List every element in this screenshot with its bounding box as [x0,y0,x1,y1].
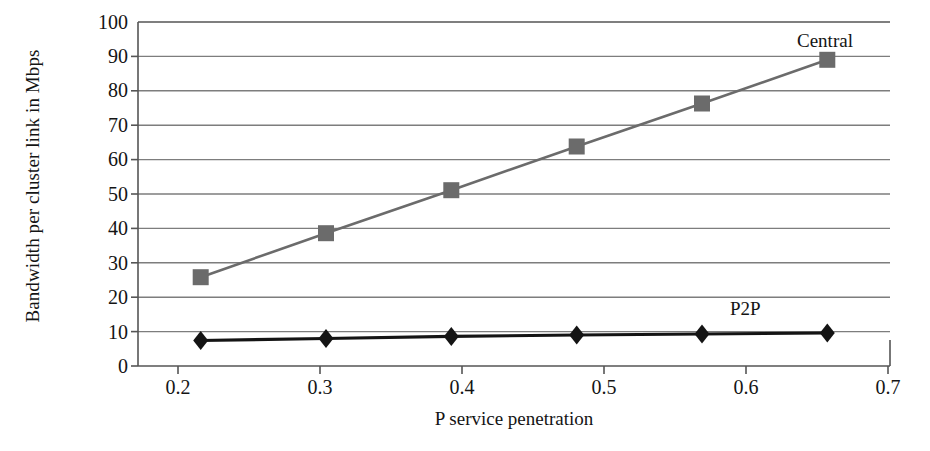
x-axis-ticks [178,366,888,374]
marker-square [193,269,209,285]
x-tick-label: 0.5 [574,376,634,399]
x-tick-label: 0.6 [716,376,776,399]
series-line [201,333,828,341]
marker-square [569,139,585,155]
marker-square [318,225,334,241]
marker-diamond [569,326,584,345]
series-line [201,60,828,277]
x-tick-label: 0.2 [148,376,208,399]
marker-diamond [820,324,835,343]
marker-square [694,96,710,112]
x-tick-label: 0.3 [290,376,350,399]
marker-diamond [193,331,208,350]
grid-lines [138,56,890,331]
series-central [193,52,836,285]
chart-figure: Bandwidth per cluster link in Mbps 100 9… [0,0,930,451]
x-tick-label: 0.7 [858,376,918,399]
series-label-p2p: P2P [730,298,761,320]
series-p2p [193,324,835,351]
x-axis-label: P service penetration [138,408,890,430]
series-label-central: Central [797,30,853,52]
marker-diamond [695,325,710,344]
marker-square [443,182,459,198]
y-axis-ticks [131,56,138,366]
x-tick-label: 0.4 [432,376,492,399]
marker-diamond [444,327,459,346]
marker-square [819,52,835,68]
